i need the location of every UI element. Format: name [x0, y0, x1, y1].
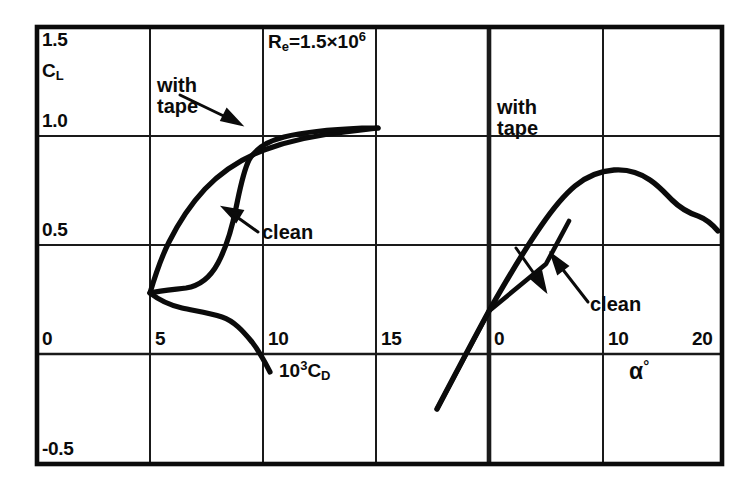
x-left-title-sub: D	[321, 368, 330, 383]
curve-clean-lift	[437, 221, 569, 409]
y-tick-0: 0	[42, 328, 52, 350]
reynolds-subscript: e	[282, 39, 289, 54]
reynolds-exponent: 6	[359, 29, 366, 44]
aerodynamic-chart-figure: 1.5 CL 1.0 0.5 0 -0.5 5 10 15 103CD 0 10…	[0, 0, 755, 487]
x-right-tick-0: 0	[494, 328, 504, 350]
curve-lower-branch-polar	[150, 293, 270, 372]
y-tick-1p5: 1.5	[42, 29, 68, 51]
x-left-title-exponent: 3	[300, 358, 307, 373]
label-with-tape-right-line2: tape	[497, 118, 538, 139]
x-right-tick-20: 20	[692, 328, 713, 350]
x-right-title-alpha: α	[629, 358, 643, 384]
y-tick-1p0: 1.0	[42, 110, 68, 132]
label-with-tape-left-line1: with	[157, 75, 198, 96]
y-tick-0p5: 0.5	[42, 219, 68, 241]
x-left-axis-title: 103CD	[279, 360, 331, 382]
label-with-tape-right: with tape	[497, 97, 538, 139]
label-clean-left: clean	[262, 222, 313, 243]
x-left-tick-5: 5	[155, 328, 165, 350]
x-right-tick-10: 10	[608, 328, 629, 350]
label-clean-right: clean	[590, 294, 641, 315]
y-axis-title: CL	[42, 60, 64, 82]
x-right-title-degree: °	[643, 357, 649, 374]
y-axis-title-main: C	[42, 60, 56, 81]
reynolds-number-annotation: Re=1.5×106	[268, 31, 366, 54]
reynolds-prefix: R	[268, 31, 282, 52]
x-left-title-tail: C	[307, 360, 321, 381]
x-left-tick-10: 10	[268, 328, 289, 350]
label-with-tape-right-line1: with	[497, 97, 538, 118]
label-with-tape-left-line2: tape	[157, 96, 198, 117]
y-tick-neg0p5: -0.5	[42, 438, 74, 460]
y-axis-title-sub: L	[56, 68, 64, 83]
arrow-head-with-tape-left	[222, 110, 240, 124]
label-with-tape-left: with tape	[157, 75, 198, 117]
x-left-title-base: 10	[279, 360, 300, 381]
reynolds-value: =1.5×10	[289, 31, 359, 52]
plot-canvas	[0, 0, 755, 487]
x-right-axis-title: α°	[629, 358, 649, 385]
x-left-tick-15: 15	[381, 328, 402, 350]
